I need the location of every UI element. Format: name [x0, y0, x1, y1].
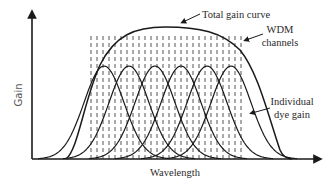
wdm-label-line1: WDM	[267, 24, 294, 35]
total-gain-curve	[66, 27, 292, 159]
gain-diagram: Gain Wavelength Total gain curve WDM cha…	[0, 0, 336, 188]
dye-gain-label-line1: Individual	[270, 96, 313, 107]
individual-dye-gain-curves	[38, 66, 297, 159]
wdm-label-line2: channels	[262, 37, 299, 48]
wdm-channel-lines	[91, 36, 241, 159]
individual-gain-curve	[38, 66, 170, 159]
x-axis-label: Wavelength	[150, 167, 201, 178]
y-axis-label: Gain	[13, 84, 24, 107]
wdm-pointer	[246, 34, 263, 40]
total-gain-pointer	[183, 14, 200, 22]
dye-gain-label-line2: dye gain	[274, 109, 311, 120]
total-gain-label: Total gain curve	[202, 9, 270, 20]
